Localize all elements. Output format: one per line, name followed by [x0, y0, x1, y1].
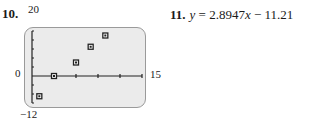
regression-equation: 11.y = 2.8947x − 11.211: [170, 7, 293, 23]
data-points: [37, 33, 108, 99]
problem-number-11: 11.: [170, 7, 186, 22]
axes: [32, 31, 142, 103]
